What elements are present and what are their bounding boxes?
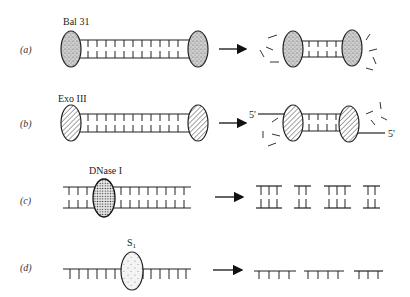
panel-c: (c) DNase I — [20, 165, 380, 217]
s1-enzyme — [121, 252, 143, 290]
five-prime-label-right: 5' — [388, 128, 395, 139]
released-nucleotides-b — [263, 102, 387, 146]
dsdna-fragments-c — [256, 186, 380, 208]
panel-a: (a) Bal 31 — [20, 16, 377, 70]
bal31-enzyme-left — [61, 31, 81, 67]
enzyme-label-bal31: Bal 31 — [63, 16, 89, 27]
dsdna-substrate-c — [63, 187, 191, 208]
panel-d: (d) S1 — [20, 237, 383, 290]
five-prime-label-left: 5' — [249, 109, 256, 120]
enzyme-label-exo3: Exo III — [58, 93, 87, 104]
bal31-enzyme-right — [188, 31, 208, 67]
exo3-enzyme-left — [61, 105, 81, 141]
dsdna-product-a — [300, 41, 345, 57]
enzyme-label-dnase1: DNase I — [89, 165, 122, 176]
bal31-enzyme-product-left — [283, 31, 303, 67]
exo3-enzyme-product-left — [283, 105, 303, 141]
dsdna-substrate-b — [80, 114, 190, 132]
exo3-enzyme-right — [188, 105, 208, 141]
row-label-c: (c) — [20, 195, 32, 207]
bal31-enzyme-product-right — [342, 30, 362, 66]
row-label-b: (b) — [20, 118, 32, 130]
nuclease-diagram: (a) Bal 31 — [0, 0, 410, 297]
enzyme-label-s1: S1 — [127, 237, 137, 250]
exo3-enzyme-product-right — [339, 106, 359, 142]
dsdna-substrate-a — [80, 40, 190, 58]
panel-b: (b) Exo III 5' 5' — [20, 93, 395, 146]
row-label-d: (d) — [20, 262, 32, 274]
ssdna-fragments-d — [254, 271, 383, 279]
dnase1-enzyme — [93, 179, 115, 217]
row-label-a: (a) — [20, 44, 32, 56]
dsdna-product-b — [300, 114, 345, 131]
